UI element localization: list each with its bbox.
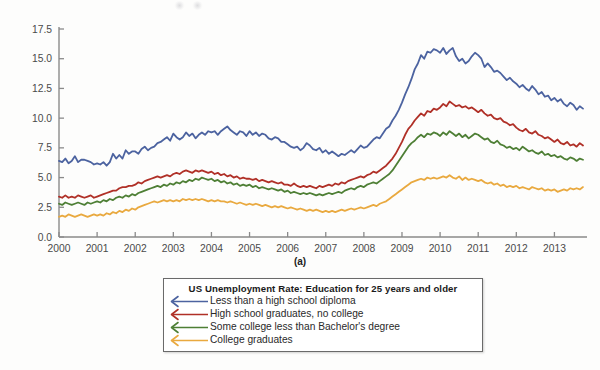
legend-entry-label: Some college less than Bachelor's degree bbox=[210, 320, 400, 333]
x-tick-label: 2005 bbox=[238, 243, 261, 254]
figure-caption: (a) bbox=[0, 256, 600, 267]
legend-arrow-icon bbox=[166, 333, 210, 346]
x-tick-label: 2012 bbox=[505, 243, 528, 254]
y-tick-label: 2.5 bbox=[38, 202, 53, 213]
x-tick-label: 2002 bbox=[124, 243, 147, 254]
legend-entries: Less than a high school diplomaHigh scho… bbox=[164, 294, 482, 346]
legend-arrow-icon bbox=[166, 320, 210, 333]
y-tick-label: 10.0 bbox=[32, 113, 52, 124]
x-tick-label: 2009 bbox=[391, 243, 414, 254]
y-tick-label: 0.0 bbox=[38, 232, 53, 243]
y-tick-label: 5.0 bbox=[38, 172, 53, 183]
legend-entry[interactable]: College graduates bbox=[166, 333, 482, 346]
x-tick-label: 2000 bbox=[48, 243, 71, 254]
legend-entry[interactable]: Less than a high school diploma bbox=[166, 294, 482, 307]
y-tick-label: 15.0 bbox=[32, 53, 52, 64]
legend-entry-label: College graduates bbox=[210, 333, 293, 346]
chart-series bbox=[59, 48, 583, 217]
y-tick-label: 12.5 bbox=[32, 83, 52, 94]
x-tick-label: 2004 bbox=[200, 243, 223, 254]
legend-arrow-icon bbox=[166, 294, 210, 307]
x-tick-label: 2007 bbox=[314, 243, 337, 254]
series-line bbox=[59, 175, 583, 217]
series-line bbox=[59, 48, 583, 166]
legend-entry-label: Less than a high school diploma bbox=[210, 294, 356, 307]
y-tick-label: 7.5 bbox=[38, 142, 53, 153]
line-chart: 0.02.55.07.510.012.515.017.5200020012002… bbox=[0, 0, 600, 275]
x-tick-label: 2006 bbox=[276, 243, 299, 254]
x-tick-label: 2003 bbox=[162, 243, 185, 254]
chart-axes bbox=[59, 27, 587, 237]
x-tick-label: 2013 bbox=[543, 243, 566, 254]
legend-entry-label: High school graduates, no college bbox=[210, 307, 363, 320]
chart-legend: US Unemployment Rate: Education for 25 y… bbox=[163, 278, 483, 352]
legend-arrow-icon bbox=[166, 307, 210, 320]
y-tick-label: 17.5 bbox=[32, 24, 52, 35]
legend-entry[interactable]: Some college less than Bachelor's degree bbox=[166, 320, 482, 333]
series-line bbox=[59, 131, 583, 205]
legend-title: US Unemployment Rate: Education for 25 y… bbox=[164, 283, 482, 294]
x-tick-label: 2008 bbox=[352, 243, 375, 254]
x-tick-label: 2010 bbox=[429, 243, 452, 254]
x-tick-label: 2011 bbox=[467, 243, 489, 254]
x-tick-label: 2001 bbox=[86, 243, 109, 254]
figure-panel: 0.02.55.07.510.012.515.017.5200020012002… bbox=[0, 0, 600, 370]
legend-entry[interactable]: High school graduates, no college bbox=[166, 307, 482, 320]
